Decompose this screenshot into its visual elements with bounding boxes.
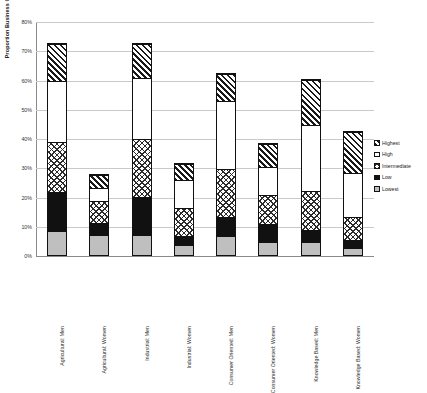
x-axis-tick-labels: Agricultural: MenAgricultural: WomenIndu… — [36, 258, 374, 328]
bar-segment-highest — [133, 44, 151, 78]
bar-segment-highest — [302, 80, 320, 125]
bar-industrial-men — [132, 43, 152, 256]
legend-item-intermediate[interactable]: Intermediate — [374, 160, 426, 172]
bar-segment-lowest — [175, 246, 193, 255]
gridline — [36, 139, 374, 140]
x-tick-label: Knowledge Based: Men — [313, 326, 319, 382]
bar-segment-lowest — [302, 243, 320, 255]
bar-segment-highest — [259, 144, 277, 167]
x-tick-label: Agricultural: Men — [59, 326, 65, 366]
gridline — [36, 51, 374, 52]
bar-segment-highest — [175, 164, 193, 180]
x-tick-label: Consumer Oriented: Men — [228, 326, 234, 385]
gridline — [36, 227, 374, 228]
bar-segment-high — [133, 78, 151, 139]
bar-segment-high — [48, 81, 66, 142]
bar-agricultural-men — [47, 43, 67, 256]
legend-item-low[interactable]: Low — [374, 172, 426, 184]
x-tick-label: Knowledge Based: Women — [355, 326, 361, 390]
y-tick-label: 10% — [21, 224, 32, 230]
bar-segment-low — [48, 192, 66, 231]
y-tick-label: 40% — [21, 136, 32, 142]
y-tick-label: 20% — [21, 195, 32, 201]
bar-segment-low — [344, 240, 362, 249]
gridline — [36, 110, 374, 111]
y-tick-label: 70% — [21, 48, 32, 54]
y-axis-tick-labels: 80%70%60%50%40%30%20%10%0% — [12, 0, 32, 329]
bar-segment-intermediate — [302, 191, 320, 230]
x-tick-label: Agricultural: Women — [101, 326, 107, 374]
bar-segment-intermediate — [217, 169, 235, 217]
bar-industrial-women — [174, 163, 194, 256]
bar-agricultural-women — [89, 174, 109, 256]
bar-knowledge-based-men — [301, 79, 321, 256]
bar-segment-high — [90, 188, 108, 201]
legend-label: Low — [382, 174, 392, 180]
bar-segment-intermediate — [175, 208, 193, 236]
x-axis-baseline — [36, 256, 374, 257]
gridline — [36, 198, 374, 199]
bar-consumer-oriented-women — [258, 143, 278, 256]
bar-segment-intermediate — [48, 142, 66, 192]
y-tick-label: 30% — [21, 165, 32, 171]
bar-segment-low — [133, 197, 151, 236]
plot-area — [36, 22, 374, 256]
y-axis-title: Proportion Business Creation by Sector — [4, 0, 10, 70]
legend-swatch-highest-icon — [374, 140, 380, 146]
bar-segment-lowest — [217, 237, 235, 255]
legend-label: Intermediate — [382, 163, 411, 169]
legend-swatch-low-icon — [374, 175, 380, 181]
legend-item-high[interactable]: High — [374, 149, 426, 161]
legend-label: High — [382, 151, 393, 157]
y-tick-label: 0% — [24, 253, 32, 259]
y-tick-label: 80% — [21, 19, 32, 25]
chart-legend: HighestHighIntermediateLowLowest — [374, 137, 426, 195]
bar-segment-high — [344, 173, 362, 217]
legend-label: Highest — [382, 140, 400, 146]
bar-segment-low — [175, 236, 193, 246]
legend-swatch-lowest-icon — [374, 186, 380, 192]
bar-segment-intermediate — [90, 201, 108, 223]
bar-segment-highest — [217, 74, 235, 102]
bar-segment-low — [302, 230, 320, 243]
bar-segment-high — [302, 125, 320, 191]
bar-segment-intermediate — [259, 195, 277, 224]
bar-segment-lowest — [133, 236, 151, 255]
legend-swatch-intermediate-icon — [374, 163, 380, 169]
gridline — [36, 81, 374, 82]
bar-segment-highest — [90, 175, 108, 188]
bar-consumer-oriented-men — [216, 73, 236, 256]
gridline — [36, 22, 374, 23]
legend-item-highest[interactable]: Highest — [374, 137, 426, 149]
bar-segment-high — [175, 180, 193, 208]
bar-segment-high — [259, 167, 277, 195]
bar-segment-low — [217, 217, 235, 237]
legend-item-lowest[interactable]: Lowest — [374, 183, 426, 195]
bar-segment-high — [217, 101, 235, 168]
bar-segment-low — [90, 223, 108, 236]
bar-segment-lowest — [48, 232, 66, 255]
bar-knowledge-based-women — [343, 131, 363, 256]
bar-segment-intermediate — [344, 217, 362, 240]
bar-segment-lowest — [259, 243, 277, 255]
x-tick-label: Consumer Oriented: Women — [270, 326, 276, 393]
bar-segment-lowest — [344, 249, 362, 255]
legend-swatch-high-icon — [374, 152, 380, 158]
bar-segment-intermediate — [133, 139, 151, 196]
x-tick-label: Industrial: Women — [186, 326, 192, 369]
bar-segment-highest — [344, 132, 362, 173]
gridline — [36, 168, 374, 169]
x-tick-label: Industrial: Men — [144, 326, 150, 361]
bar-segment-lowest — [90, 236, 108, 255]
y-tick-label: 60% — [21, 78, 32, 84]
bar-segment-highest — [48, 44, 66, 81]
legend-label: Lowest — [382, 186, 398, 192]
bar-segment-low — [259, 224, 277, 243]
y-tick-label: 50% — [21, 107, 32, 113]
